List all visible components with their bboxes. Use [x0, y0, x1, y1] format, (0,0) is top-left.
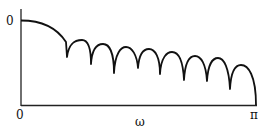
x-axis-label: ω: [135, 115, 145, 129]
x-zero-label: 0: [16, 108, 24, 122]
x-pi-label: π: [250, 108, 258, 122]
frequency-response-chart: 0 0 π ω: [0, 0, 263, 132]
response-curve: [21, 21, 256, 106]
y-zero-label: 0: [6, 14, 14, 28]
